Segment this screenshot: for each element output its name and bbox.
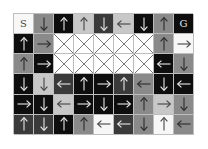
policy-cell: [94, 115, 114, 135]
wall-cell: [114, 54, 134, 74]
arrow-left-icon: [116, 116, 132, 132]
arrow-up-icon: [156, 116, 172, 132]
policy-cell: [14, 54, 34, 74]
arrow-up-icon: [56, 116, 72, 132]
arrow-up-icon: [16, 56, 32, 72]
policy-cell: [34, 95, 54, 115]
policy-cell: [14, 95, 34, 115]
wall-cell: [74, 34, 94, 54]
arrow-right-icon: [16, 96, 32, 112]
policy-cell: [154, 74, 174, 94]
arrow-right-icon: [176, 36, 192, 52]
wall-cell: [114, 34, 134, 54]
policy-cell: [54, 115, 74, 135]
policy-cell: [34, 54, 54, 74]
wall-cell: [134, 54, 154, 74]
policy-cell: [154, 95, 174, 115]
policy-cell: [34, 115, 54, 135]
policy-cell: [94, 14, 114, 34]
arrow-right-icon: [156, 96, 172, 112]
policy-cell: [34, 14, 54, 34]
policy-cell: [134, 115, 154, 135]
policy-cell: [74, 95, 94, 115]
wall-cell: [94, 54, 114, 74]
arrow-up-icon: [16, 116, 32, 132]
arrow-right-icon: [36, 56, 52, 72]
arrow-up-icon: [16, 36, 32, 52]
policy-cell: [74, 14, 94, 34]
arrow-left-icon: [176, 76, 192, 92]
arrow-up-icon: [76, 116, 92, 132]
wall-x-icon: [114, 54, 134, 74]
arrow-left-icon: [56, 76, 72, 92]
wall-cell: [94, 34, 114, 54]
wall-cell: [54, 54, 74, 74]
policy-cell: [94, 95, 114, 115]
policy-cell: [174, 34, 194, 54]
policy-cell: [154, 115, 174, 135]
policy-cell: [34, 34, 54, 54]
arrow-right-icon: [36, 36, 52, 52]
arrow-right-icon: [116, 96, 132, 112]
arrow-down-icon: [136, 16, 152, 32]
arrow-down-icon: [36, 76, 52, 92]
policy-cell: [134, 74, 154, 94]
arrow-down-icon: [36, 16, 52, 32]
wall-x-icon: [94, 34, 114, 54]
wall-cell: [74, 54, 94, 74]
policy-cell: [154, 14, 174, 34]
arrow-down-icon: [36, 96, 52, 112]
start-label: S: [20, 19, 27, 29]
arrow-down-icon: [176, 96, 192, 112]
wall-x-icon: [54, 54, 74, 74]
wall-x-icon: [54, 34, 74, 54]
wall-x-icon: [74, 34, 94, 54]
arrow-left-icon: [116, 16, 132, 32]
gridworld-policy-grid: SG: [13, 13, 193, 134]
policy-cell: [114, 95, 134, 115]
arrow-down-icon: [156, 76, 172, 92]
policy-cell: [114, 14, 134, 34]
arrow-up-icon: [136, 96, 152, 112]
policy-cell: [114, 74, 134, 94]
wall-x-icon: [94, 54, 114, 74]
arrow-down-icon: [96, 16, 112, 32]
arrow-right-icon: [76, 96, 92, 112]
arrow-down-icon: [96, 96, 112, 112]
arrow-up-icon: [76, 16, 92, 32]
arrow-left-icon: [176, 116, 192, 132]
policy-cell: [14, 115, 34, 135]
arrow-down-icon: [136, 116, 152, 132]
policy-cell: [74, 74, 94, 94]
arrow-up-icon: [116, 76, 132, 92]
policy-cell: [174, 54, 194, 74]
policy-cell: [14, 74, 34, 94]
policy-cell: [74, 115, 94, 135]
policy-cell: [134, 14, 154, 34]
arrow-up-icon: [76, 76, 92, 92]
arrow-left-icon: [96, 116, 112, 132]
policy-cell: [174, 95, 194, 115]
wall-x-icon: [134, 54, 154, 74]
goal-cell: G: [174, 14, 194, 34]
wall-x-icon: [74, 54, 94, 74]
policy-cell: [54, 14, 74, 34]
arrow-down-icon: [36, 116, 52, 132]
wall-x-icon: [114, 34, 134, 54]
policy-cell: [154, 34, 174, 54]
start-cell: S: [14, 14, 34, 34]
policy-cell: [54, 74, 74, 94]
arrow-up-icon: [56, 16, 72, 32]
policy-cell: [14, 34, 34, 54]
arrow-down-icon: [176, 56, 192, 72]
arrow-up-icon: [156, 36, 172, 52]
policy-cell: [174, 115, 194, 135]
arrow-right-icon: [96, 76, 112, 92]
policy-cell: [34, 74, 54, 94]
policy-cell: [114, 115, 134, 135]
policy-cell: [154, 54, 174, 74]
policy-cell: [54, 95, 74, 115]
wall-x-icon: [134, 34, 154, 54]
arrow-up-icon: [156, 16, 172, 32]
wall-cell: [134, 34, 154, 54]
